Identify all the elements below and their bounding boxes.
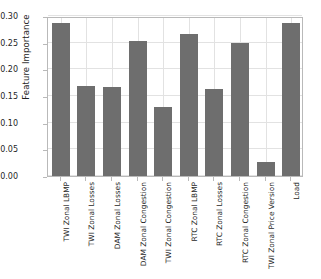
y-tick-label: 0.20	[0, 66, 18, 74]
y-tick-label: 0.05	[0, 146, 18, 154]
bar[interactable]	[231, 43, 249, 176]
y-tick-label: 0.25	[0, 40, 18, 48]
plot-area	[47, 17, 303, 177]
x-tick-mark	[85, 177, 86, 181]
x-tick-mark	[265, 177, 266, 181]
y-tick-mark	[43, 177, 47, 178]
x-tick-label: Load	[293, 182, 301, 200]
bar[interactable]	[257, 162, 275, 176]
bar[interactable]	[129, 41, 147, 176]
x-tick-mark	[213, 177, 214, 181]
bar[interactable]	[103, 87, 121, 176]
x-tick-label: RTC Zonal Congestion	[242, 182, 250, 263]
y-tick-label: 0.30	[0, 13, 18, 21]
x-tick-mark	[111, 177, 112, 181]
bar-series	[48, 18, 302, 176]
x-tick-label: TWI Zonal LBMP	[63, 182, 71, 242]
y-tick-label: 0.15	[0, 93, 18, 101]
x-tick-label: DAM Zonal Losses	[114, 182, 122, 249]
x-tick-label: RTC Zonal Losses	[216, 182, 224, 246]
bar[interactable]	[154, 107, 172, 176]
bar[interactable]	[205, 89, 223, 176]
x-tick-mark	[290, 177, 291, 181]
x-tick-mark	[137, 177, 138, 181]
x-tick-label: TWI Zonal Price Version	[268, 182, 276, 269]
y-tick-label: 0.10	[0, 120, 18, 128]
x-tick-mark	[188, 177, 189, 181]
x-tick-label: TWI Zonal Congestion	[165, 182, 173, 263]
bar[interactable]	[282, 23, 300, 176]
x-tick-label: DAM Zonal Congestion	[140, 182, 148, 266]
bar-chart-figure: Feature Importance 0.000.050.100.150.200…	[0, 0, 321, 279]
x-tick-mark	[60, 177, 61, 181]
x-tick-label: RTC Zonal LBMP	[191, 182, 199, 241]
x-tick-label: TWI Zonal Losses	[88, 182, 96, 246]
bar[interactable]	[77, 86, 95, 176]
y-axis-label: Feature Importance	[21, 0, 31, 127]
x-axis-tick-labels: TWI Zonal LBMPTWI Zonal LossesDAM Zonal …	[47, 182, 303, 278]
bar[interactable]	[180, 34, 198, 176]
x-tick-mark	[239, 177, 240, 181]
y-tick-label: 0.00	[0, 173, 18, 181]
gridline-horizontal	[48, 15, 302, 16]
x-tick-mark	[162, 177, 163, 181]
bar[interactable]	[52, 23, 70, 176]
